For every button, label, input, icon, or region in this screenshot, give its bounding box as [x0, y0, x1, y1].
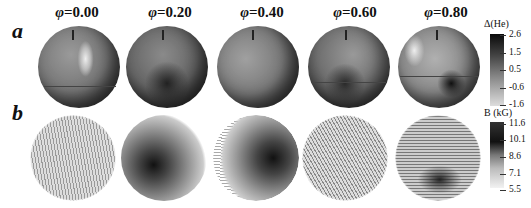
colorbar-b-title: B (kG)	[484, 107, 512, 118]
abundance-map-sphere-0	[38, 26, 120, 108]
colorbar-a-tick-label-2: 0.5	[509, 64, 521, 74]
colorbar-a-tick	[500, 88, 506, 89]
colorbar-a-tick	[500, 35, 506, 36]
pole-tick-2	[252, 30, 254, 40]
phase-label-1: φ=0.20	[125, 4, 215, 21]
colorbar-b-tick	[500, 174, 506, 175]
pole-tick-0	[72, 30, 74, 40]
colorbar-a-tick	[500, 70, 506, 71]
equator-line-4	[400, 76, 478, 77]
magnetic-field-sphere-1	[121, 115, 207, 201]
magnetic-field-sphere-2	[213, 115, 299, 201]
colorbar-b-tick	[500, 140, 506, 141]
colorbar-a-tick	[500, 53, 506, 54]
pole-tick-1	[162, 30, 164, 40]
colorbar-b-tick-label-1: 10.1	[509, 134, 526, 144]
panel-label-b: b	[12, 100, 23, 126]
magnetic-field-sphere-4	[395, 115, 481, 201]
colorbar-a-tick-label-1: 1.5	[509, 47, 521, 57]
colorbar-b-tick	[500, 190, 506, 191]
colorbar-b-tick-label-4: 5.5	[509, 184, 521, 194]
equator-line-3	[312, 82, 386, 83]
magnetic-field-sphere-0	[30, 115, 116, 201]
colorbar-b-tick	[500, 124, 506, 125]
phase-label-0: φ=0.00	[32, 4, 122, 21]
phase-label-2: φ=0.40	[217, 4, 307, 21]
abundance-map-sphere-2	[217, 26, 299, 108]
colorbar-b-tick	[500, 157, 506, 158]
colorbar-b	[490, 122, 504, 188]
colorbar-a-title: Δ(He)	[484, 18, 509, 29]
panel-label-a: a	[12, 18, 23, 44]
pole-tick-3	[345, 30, 347, 40]
colorbar-b-tick-label-2: 8.6	[509, 151, 521, 161]
colorbar-b-tick-label-3: 7.1	[509, 168, 521, 178]
phase-label-3: φ=0.60	[310, 4, 400, 21]
pole-tick-4	[436, 30, 438, 40]
equator-line-0	[44, 86, 116, 87]
abundance-map-sphere-3	[308, 26, 390, 108]
colorbar-b-tick-label-0: 11.6	[509, 118, 525, 128]
colorbar-a-tick-label-0: 2.6	[509, 29, 521, 39]
phase-label-4: φ=0.80	[401, 4, 491, 21]
magnetic-field-sphere-3	[302, 115, 388, 201]
colorbar-a-tick	[500, 105, 506, 106]
abundance-map-sphere-1	[126, 26, 208, 108]
colorbar-a-tick-label-3: -0.6	[509, 82, 524, 92]
abundance-map-sphere-4	[398, 26, 480, 108]
